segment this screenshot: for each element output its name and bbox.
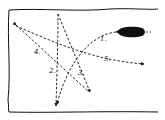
path-label-2: 2. bbox=[49, 68, 56, 75]
path-4 bbox=[16, 25, 89, 92]
path-label-1: 1. bbox=[100, 36, 107, 43]
path-1 bbox=[57, 32, 116, 104]
diagram-canvas bbox=[0, 0, 165, 120]
wavy-border bbox=[8, 9, 158, 113]
path-label-3: 3. bbox=[78, 70, 85, 77]
path-label-5: 5. bbox=[104, 56, 111, 63]
path-2 bbox=[56, 14, 58, 106]
path-label-4: 4. bbox=[34, 49, 41, 56]
oval-object-icon bbox=[118, 27, 151, 37]
